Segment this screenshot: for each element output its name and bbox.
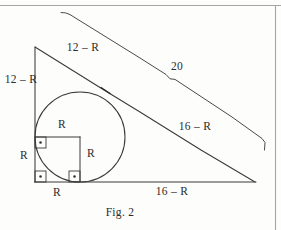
label-leg-vertical: 12 – R — [5, 74, 37, 86]
label-hypotenuse-lower: 16 – R — [179, 121, 211, 133]
label-outer-hypotenuse: 20 — [171, 61, 183, 73]
geometry-figure-svg — [0, 0, 281, 230]
figure-caption: Fig. 2 — [106, 207, 135, 219]
outer-hypotenuse-line — [61, 12, 265, 150]
label-radius-bottom: R — [53, 187, 61, 199]
label-hypotenuse-upper: 12 – R — [67, 42, 99, 54]
right-angle-marker-top-left — [35, 137, 46, 148]
label-radius-left: R — [20, 150, 28, 162]
label-base-right: 16 – R — [156, 186, 188, 198]
label-radius-top: R — [58, 119, 66, 131]
right-angle-marker-bottom-left — [35, 171, 46, 182]
right-angle-marker-bottom-right — [69, 171, 80, 182]
tangent-point-mark — [101, 88, 110, 94]
figure-page: 12 – R 12 – R 20 16 – R 16 – R R R R R F… — [0, 0, 281, 230]
triangle-hypotenuse — [35, 47, 255, 182]
label-radius-right: R — [87, 148, 95, 160]
